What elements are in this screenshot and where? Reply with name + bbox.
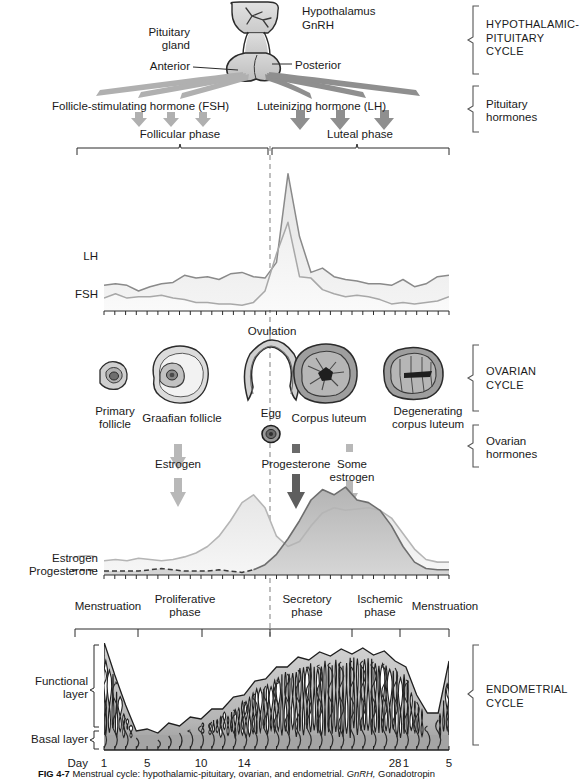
proliferative-phase-label: Proliferative phase: [140, 593, 230, 619]
figure-caption: FIG 4-7 Menstrual cycle: hypothalamic-pi…: [38, 768, 435, 779]
graafian-follicle-label: Graafian follicle: [122, 412, 242, 425]
ovarian-cycle-label: OVARIAN CYCLE: [486, 365, 536, 392]
basal-layer-bracket: [90, 731, 99, 749]
figure-caption-abbr: GnRH,: [347, 768, 376, 779]
degenerating-corpus-luteum-label: Degenerating corpus luteum: [374, 405, 482, 431]
posterior-label: Posterior: [295, 59, 341, 72]
ovarian-cycle-bracket: [468, 345, 479, 411]
hypothalamic-pituitary-cycle-label: HYPOTHALAMIC- PITUITARY CYCLE: [486, 18, 579, 59]
hypothalamus-label: Hypothalamus: [302, 5, 376, 18]
menstruation-phase-label-1: Menstruation: [68, 600, 148, 613]
fsh-down-arrow-3: [195, 112, 211, 127]
ovulation-label: Ovulation: [222, 325, 322, 338]
lh-label: Luteinizing hormone (LH): [257, 100, 386, 113]
endometrial-gland: [126, 719, 129, 729]
lh-down-arrow-3: [374, 110, 394, 130]
lh-down-arrow-1: [290, 110, 310, 130]
gonadotropin-chart: [104, 174, 449, 311]
luteal-phase-label: Luteal phase: [295, 128, 425, 141]
endometrial-gland: [216, 720, 218, 733]
menstruation-phase-label-2: Menstruation: [404, 600, 486, 613]
endometrial-cycle-label: ENDOMETRIAL CYCLE: [486, 683, 568, 710]
phase-brackets: [77, 144, 449, 155]
progesterone-arrow-shape: [287, 474, 305, 509]
estrogen-arrow-shape-lower: [170, 478, 186, 507]
degenerating-corpus-luteum-illustration: [384, 347, 443, 399]
basal-layer-label: Basal layer: [8, 733, 88, 746]
figure-caption-tail: Gonadotropin: [378, 768, 435, 779]
fsh-down-arrow-2: [163, 112, 179, 127]
hypothalamic-pituitary-cycle-bracket: [468, 6, 479, 74]
endometrial-cycle-bracket: [468, 645, 479, 745]
secretory-phase-label: Secretory phase: [262, 593, 352, 619]
primary-follicle-illustration: [100, 362, 127, 390]
some-estrogen-arrow-label: Some estrogen: [324, 458, 380, 484]
fsh-series-label: FSH: [40, 288, 98, 301]
endometrial-gland: [324, 661, 326, 736]
endometrial-gland: [378, 666, 380, 733]
endometrium-illustration: [102, 642, 452, 750]
hypothalamus-pituitary-anatomy: [193, 2, 292, 81]
lh-pituitary-arrows: [265, 72, 420, 99]
fsh-down-arrow-1: [131, 112, 147, 127]
ovarian-hormones-bracket: [468, 425, 479, 467]
lh-down-arrow-2: [330, 110, 350, 130]
graafian-follicle-illustration: [153, 346, 208, 403]
lh-to-luteal-arrows: [290, 110, 394, 130]
endometrial-gland: [334, 660, 337, 732]
luteal-phase-bracket: [272, 144, 449, 155]
functional-layer-bracket: [90, 645, 99, 727]
steroid-chart: [104, 487, 449, 575]
egg-illustration: [262, 426, 280, 443]
ovarian-hormones-label: Ovarian hormones: [486, 435, 537, 461]
figure-caption-id: FIG 4-7: [38, 768, 70, 779]
corpus-luteum-illustration: [294, 344, 357, 403]
gnrh-label: GnRH: [302, 19, 334, 32]
fsh-label: Follicle-stimulating hormone (FSH): [52, 100, 229, 113]
pituitary-hormones-label: Pituitary hormones: [486, 98, 537, 124]
figure-caption-text: Menstrual cycle: hypothalamic-pituitary,…: [72, 768, 344, 779]
some-estrogen-arrow-stub: [346, 444, 353, 452]
pituitary-hormone-arrows: [96, 72, 249, 99]
gonadotropin-axis-ticks: [104, 311, 449, 315]
progesterone-arrow-stub: [292, 444, 300, 453]
estrogen-series-label: Estrogen: [16, 552, 98, 565]
lh-series-label: LH: [48, 250, 98, 263]
anterior-label: Anterior: [118, 60, 190, 73]
functional-layer-label: Functional layer: [14, 675, 88, 701]
follicular-phase-bracket: [77, 144, 268, 155]
side-section-brackets: [468, 6, 479, 745]
corpus-luteum-label: Corpus luteum: [277, 412, 381, 425]
endometrial-phase-bracket: [75, 629, 449, 637]
ovulating-follicle-illustration: [244, 340, 299, 400]
endometrial-gland: [421, 710, 423, 736]
progesterone-series-label: Progesterone: [6, 565, 98, 578]
follicular-phase-label: Follicular phase: [115, 128, 245, 141]
estrogen-arrow-label: Estrogen: [143, 458, 213, 471]
day-tick-label: 5: [429, 757, 469, 770]
endometrial-layer-brackets: [90, 645, 99, 749]
fsh-to-follicular-arrows: [131, 112, 211, 127]
pituitary-gland-label: Pituitary gland: [118, 26, 190, 52]
steroid-axis-ticks: [104, 575, 449, 579]
pituitary-hormones-bracket: [468, 86, 479, 132]
